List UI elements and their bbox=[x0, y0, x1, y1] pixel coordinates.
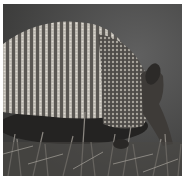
armadillo-photo bbox=[3, 4, 182, 176]
image-frame bbox=[0, 0, 186, 180]
armadillo-illustration bbox=[3, 4, 182, 176]
armadillo-foot bbox=[113, 139, 129, 149]
